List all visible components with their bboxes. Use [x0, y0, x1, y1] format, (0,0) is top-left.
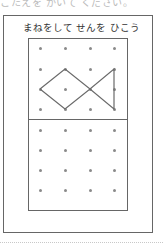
- fish-figure: [0, 0, 163, 246]
- fish-outline: [40, 69, 114, 109]
- page-separator: [0, 242, 163, 243]
